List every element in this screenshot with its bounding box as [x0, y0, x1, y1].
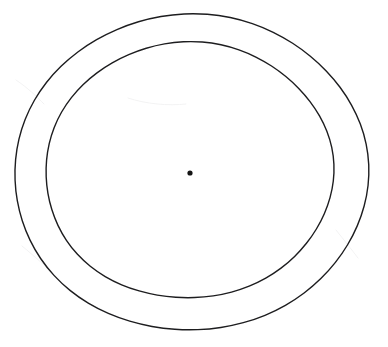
figure-canvas: Hand-drawn line figure: two nearly conce… — [0, 0, 388, 347]
center-dot-group — [187, 170, 192, 175]
paper-background — [0, 0, 388, 347]
concentric-circles-figure: Concentric circles with center point — [0, 0, 388, 347]
center-dot — [187, 170, 192, 175]
